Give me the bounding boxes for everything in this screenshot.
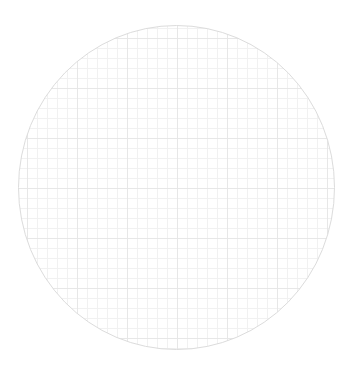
circular-grid-plot (0, 0, 353, 373)
chart-figure (0, 0, 353, 373)
